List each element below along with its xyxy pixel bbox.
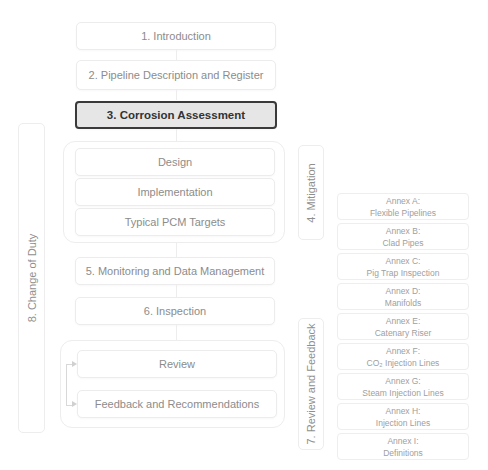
mitigation-bar[interactable]: 4. Mitigation <box>298 145 324 240</box>
annex-g-title: Annex G: <box>385 375 420 387</box>
annex-b-title: Annex B: <box>386 225 421 237</box>
mitigation-item-typical-pcm-targets-label: Typical PCM Targets <box>125 216 226 228</box>
change-of-duty-bar[interactable]: 8. Change of Duty <box>18 123 45 433</box>
arrow-head-icon <box>72 401 77 407</box>
annex-g-subtitle: Steam Injection Lines <box>362 387 443 399</box>
connector-line <box>176 243 177 257</box>
arrow-head-icon <box>72 361 77 367</box>
connector-line <box>176 90 177 100</box>
annex-c[interactable]: Annex C: Pig Trap Inspection <box>337 253 469 280</box>
annex-d[interactable]: Annex D: Manifolds <box>337 283 469 310</box>
section-inspection[interactable]: 6. Inspection <box>75 297 275 325</box>
section-pipeline-description-label: 2. Pipeline Description and Register <box>89 69 264 81</box>
section-introduction[interactable]: 1. Introduction <box>76 22 276 50</box>
section-corrosion-assessment-label: 3. Corrosion Assessment <box>107 109 245 121</box>
annex-f-title: Annex F: <box>386 345 420 357</box>
annex-a[interactable]: Annex A: Flexible Pipelines <box>337 193 469 220</box>
review-item-review-label: Review <box>159 358 195 370</box>
annex-h[interactable]: Annex H: Injection Lines <box>337 403 469 430</box>
annex-b[interactable]: Annex B: Clad Pipes <box>337 223 469 250</box>
mitigation-item-implementation[interactable]: Implementation <box>75 178 275 206</box>
connector-line <box>176 129 177 141</box>
mitigation-item-implementation-label: Implementation <box>137 186 212 198</box>
connector-line <box>176 50 177 60</box>
annex-e[interactable]: Annex E: Catenary Riser <box>337 313 469 340</box>
review-feedback-bar[interactable]: 7. Review and Feedback <box>298 318 324 450</box>
review-item-feedback-label: Feedback and Recommendations <box>95 398 259 410</box>
annex-i[interactable]: Annex I: Definitions <box>337 433 469 460</box>
annex-c-title: Annex C: <box>386 255 421 267</box>
feedback-loop-arrow <box>66 364 73 406</box>
section-monitoring-label: 5. Monitoring and Data Management <box>86 265 265 277</box>
annex-b-subtitle: Clad Pipes <box>382 237 423 249</box>
annex-c-subtitle: Pig Trap Inspection <box>367 267 440 279</box>
annex-a-title: Annex A: <box>386 195 420 207</box>
annex-e-title: Annex E: <box>386 315 421 327</box>
annex-i-subtitle: Definitions <box>383 447 423 459</box>
mitigation-item-design[interactable]: Design <box>75 148 275 176</box>
mitigation-label: 4. Mitigation <box>305 163 317 222</box>
section-corrosion-assessment[interactable]: 3. Corrosion Assessment <box>75 101 277 129</box>
annex-a-subtitle: Flexible Pipelines <box>370 207 436 219</box>
annex-g[interactable]: Annex G: Steam Injection Lines <box>337 373 469 400</box>
annex-e-subtitle: Catenary Riser <box>375 327 432 339</box>
review-feedback-label: 7. Review and Feedback <box>305 323 317 444</box>
annex-d-title: Annex D: <box>386 285 421 297</box>
annex-i-title: Annex I: <box>387 435 418 447</box>
mitigation-item-typical-pcm-targets[interactable]: Typical PCM Targets <box>75 208 275 236</box>
connector-line <box>176 285 177 297</box>
annex-d-subtitle: Manifolds <box>385 297 421 309</box>
annex-h-subtitle: Injection Lines <box>376 417 430 429</box>
change-of-duty-label: 8. Change of Duty <box>26 234 38 323</box>
annex-f-subtitle: CO₂ Injection Lines <box>367 357 440 369</box>
annex-f[interactable]: Annex F: CO₂ Injection Lines <box>337 343 469 370</box>
section-inspection-label: 6. Inspection <box>144 305 206 317</box>
annex-h-title: Annex H: <box>386 405 421 417</box>
review-item-review[interactable]: Review <box>77 350 277 378</box>
mitigation-item-design-label: Design <box>158 156 192 168</box>
section-pipeline-description[interactable]: 2. Pipeline Description and Register <box>76 60 276 90</box>
section-introduction-label: 1. Introduction <box>141 30 211 42</box>
section-monitoring[interactable]: 5. Monitoring and Data Management <box>75 257 275 285</box>
connector-line <box>176 325 177 340</box>
review-item-feedback[interactable]: Feedback and Recommendations <box>77 390 277 418</box>
